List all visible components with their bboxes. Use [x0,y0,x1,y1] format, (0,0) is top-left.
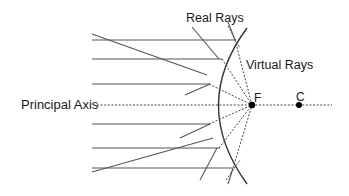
principal-axis-label: Principal Axis [21,98,98,111]
focus-label: F [254,92,261,104]
center-label: C [296,91,305,103]
virtual-rays-label: Virtual Rays [246,59,313,72]
convex-mirror [219,28,248,184]
incident-rays [92,34,235,172]
real-rays-label: Real Rays [186,12,244,25]
convex-mirror-diagram: Real Rays Virtual Rays Principal Axis F … [0,0,349,196]
real-rays [180,22,235,184]
